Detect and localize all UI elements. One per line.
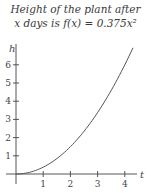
y-tick-label: 2	[5, 133, 11, 143]
x-tick-label: 3	[95, 179, 101, 189]
x-axis-label: t	[140, 169, 145, 180]
y-tick-label: 3	[5, 114, 11, 124]
y-axis-label: h	[9, 43, 15, 54]
y-tick-label: 4	[5, 96, 11, 106]
y-tick-label: 6	[5, 60, 11, 70]
plot-area: h t 1234 123456	[0, 0, 151, 193]
x-tick-label: 1	[40, 179, 46, 189]
y-ticks: 123456	[5, 60, 19, 161]
y-tick-label: 1	[5, 151, 11, 161]
x-tick-label: 4	[122, 179, 128, 189]
y-tick-label: 5	[5, 78, 11, 88]
x-tick-label: 2	[68, 179, 74, 189]
curve-line	[16, 48, 133, 174]
